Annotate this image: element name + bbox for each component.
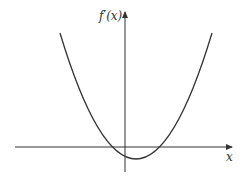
x-axis-label: x <box>226 150 233 164</box>
parabola-curve <box>60 33 212 159</box>
function-graph: f′(x) x <box>0 0 244 176</box>
y-axis-label: f′(x) <box>98 9 123 23</box>
